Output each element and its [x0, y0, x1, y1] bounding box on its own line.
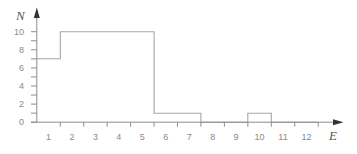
x-tick-label: 12: [301, 132, 311, 142]
x-tick-label: 11: [278, 132, 287, 142]
x-axis-title: E: [328, 128, 337, 143]
y-tick-label: 10: [14, 27, 24, 37]
tick-labels: 0246810123456789101112: [14, 27, 311, 142]
x-tick-label: 4: [116, 132, 121, 142]
x-tick-label: 8: [210, 132, 215, 142]
histogram-step-line: [37, 32, 318, 123]
y-tick-label: 2: [19, 99, 24, 109]
y-axis-arrow-icon: [34, 8, 40, 19]
y-tick-label: 8: [19, 45, 24, 55]
x-tick-label: 3: [93, 132, 98, 142]
y-tick-label: 6: [19, 63, 24, 73]
histogram-chart: 0246810123456789101112 N E: [0, 0, 357, 154]
y-axis-title: N: [15, 8, 26, 23]
x-tick-label: 1: [46, 132, 51, 142]
x-axis-arrow-icon: [333, 119, 344, 125]
chart-canvas: 0246810123456789101112 N E: [0, 0, 357, 154]
histogram-series: [37, 32, 318, 123]
x-tick-label: 5: [140, 132, 145, 142]
ticks: [31, 32, 318, 127]
x-tick-label: 2: [69, 132, 74, 142]
axes: [31, 8, 344, 126]
x-tick-label: 6: [163, 132, 168, 142]
y-tick-label: 4: [19, 81, 24, 91]
x-tick-label: 7: [187, 132, 192, 142]
y-tick-label: 0: [19, 117, 24, 127]
x-tick-label: 9: [234, 132, 239, 142]
x-tick-label: 10: [255, 132, 265, 142]
